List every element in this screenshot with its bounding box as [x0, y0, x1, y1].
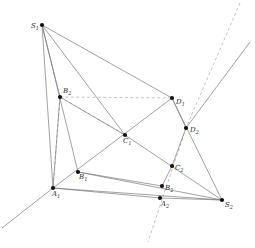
S1-D1: [42, 25, 172, 98]
vertex-dot-d1: [170, 96, 174, 100]
S2-A1: [53, 188, 222, 200]
vertex-label-subscript: 2: [166, 203, 169, 209]
vertex-label-b3: B2: [165, 185, 173, 193]
vertex-label-subscript: 2: [196, 129, 199, 135]
vertex-label-s1: S1: [31, 23, 39, 31]
vertex-label-c2: C2: [175, 165, 184, 173]
geometry-canvas: [0, 0, 255, 248]
D2-C2: [172, 128, 186, 166]
S1-A1: [42, 25, 53, 188]
vertex-label-subscript: 1: [128, 140, 131, 146]
vertex-dot-c2: [170, 164, 174, 168]
vertex-dot-b3: [160, 184, 164, 188]
vertex-dot-s1: [40, 23, 44, 27]
vertex-label-subscript: 1: [57, 193, 60, 199]
geometry-diagram: S1B2D1D2C1C2B1B2A1A2S2: [0, 0, 255, 248]
solid-edges-layer: [42, 25, 222, 200]
vertex-label-c1: C1: [123, 138, 132, 146]
vertex-label-a1: A1: [52, 191, 60, 199]
vertex-dot-d2: [184, 126, 188, 130]
vertex-label-subscript: 2: [170, 187, 173, 193]
C2-B3: [162, 166, 172, 186]
vertex-dots-layer: [40, 23, 224, 202]
vertex-label-subscript: 2: [68, 90, 71, 96]
vertex-label-d2: D2: [190, 127, 199, 135]
vertex-label-subscript: 2: [180, 167, 183, 173]
A1-B2: [53, 97, 60, 188]
vertex-label-b2: B2: [63, 88, 71, 96]
vertex-label-a2: A2: [161, 201, 169, 209]
vertex-label-d1: D1: [176, 99, 185, 107]
B1-B3: [78, 172, 162, 186]
S1-C1: [42, 25, 125, 135]
vertex-label-subscript: 1: [84, 176, 87, 182]
vertex-label-subscript: 1: [182, 101, 185, 107]
B2-D1-dashed: [60, 97, 172, 98]
vertex-label-subscript: 1: [36, 25, 39, 31]
S2-B1: [78, 172, 222, 200]
B2-C1: [60, 97, 125, 135]
vertex-label-s2: S2: [225, 202, 233, 210]
vertex-label-subscript: 2: [230, 204, 233, 210]
vertex-dot-s2: [220, 198, 224, 202]
A1-A2: [53, 188, 160, 198]
vertex-dot-b2: [58, 95, 62, 99]
vertex-label-b1: B1: [79, 174, 87, 182]
axis-solid-upper-right: [186, 42, 250, 128]
axis-dashed-upper: [186, 3, 240, 128]
axis-solid-lower-left: [2, 188, 53, 228]
construction-rays-layer: [2, 3, 250, 242]
